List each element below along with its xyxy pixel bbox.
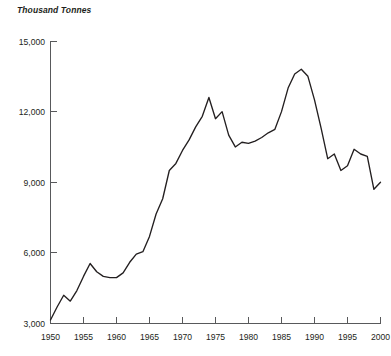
x-tick-labels: 1950 1955 1960 1965 1970 1975 1980 1985 … — [41, 332, 390, 342]
x-tick-label: 1950 — [41, 332, 60, 342]
data-series-line — [51, 69, 381, 320]
x-tick-label: 1985 — [272, 332, 291, 342]
x-tick-label: 1995 — [338, 332, 357, 342]
y-tick-label: 6,000 — [23, 248, 45, 258]
x-tick-label: 1955 — [74, 332, 93, 342]
x-tick-label: 1970 — [173, 332, 192, 342]
y-tick-label: 3,000 — [23, 319, 45, 329]
y-tick-label: 15,000 — [19, 37, 46, 47]
x-tick-label: 1980 — [239, 332, 258, 342]
x-tick-label: 1975 — [206, 332, 225, 342]
y-tick-label: 9,000 — [23, 178, 45, 188]
x-tick-label: 2000 — [371, 332, 390, 342]
x-tick-label: 1960 — [107, 332, 126, 342]
chart-figure: Thousand Tonnes 15,000 12,000 9,000 6,00… — [0, 0, 391, 356]
x-tick-marks — [51, 317, 381, 324]
line-chart-plot: 15,000 12,000 9,000 6,000 3,000 1950 195… — [0, 0, 391, 356]
x-tick-label: 1990 — [305, 332, 324, 342]
y-tick-label: 12,000 — [19, 107, 46, 117]
y-tick-marks — [51, 42, 58, 253]
y-tick-labels: 15,000 12,000 9,000 6,000 3,000 — [19, 37, 46, 329]
x-tick-label: 1965 — [140, 332, 159, 342]
